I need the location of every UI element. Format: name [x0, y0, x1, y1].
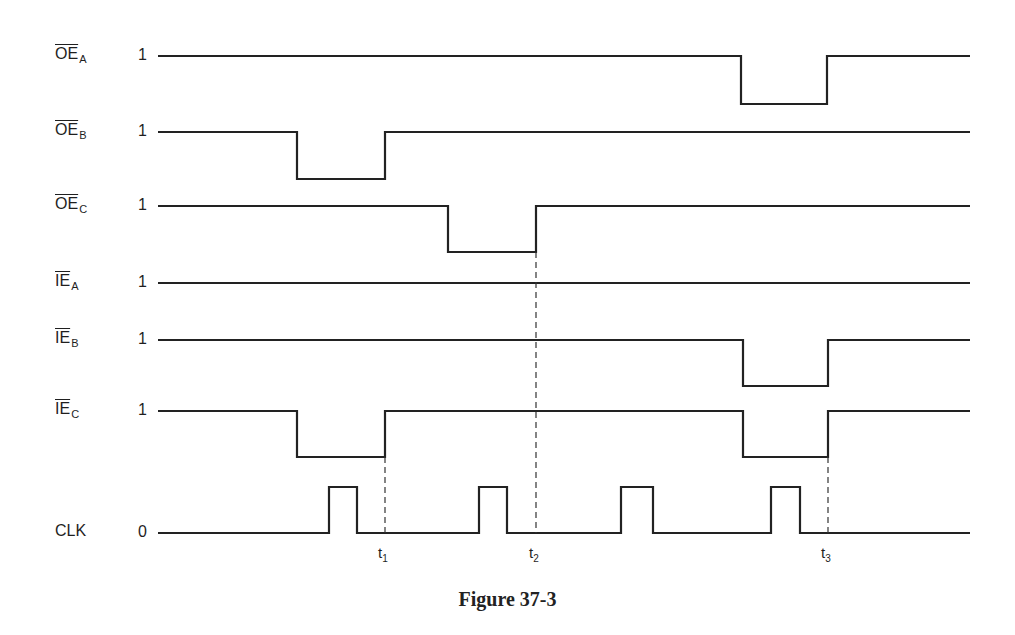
timing-diagram: OEA1OEB1OEC1IEA1IEB1IEC1CLK0t1t2t3 Figur…	[0, 0, 1015, 635]
signal-name-ie_c: IEC	[55, 401, 79, 420]
signal-name-oe_c: OEC	[55, 196, 87, 215]
signal-name-ie_a: IEA	[55, 273, 78, 292]
time-marker-label-3: t3	[821, 545, 831, 564]
signal-name-oe_a: OEA	[55, 46, 86, 65]
waveform-oe_b	[158, 132, 970, 179]
time-marker-label-1: t1	[378, 545, 388, 564]
waveform-ie_b	[158, 340, 970, 386]
level-label-oe_b: 1	[138, 123, 147, 139]
signal-name-clk: CLK	[55, 523, 86, 539]
level-label-ie_a: 1	[138, 274, 147, 290]
level-label-clk: 0	[138, 524, 147, 540]
level-label-ie_c: 1	[138, 402, 147, 418]
waveform-oe_c	[158, 206, 970, 252]
signal-name-oe_b: OEB	[55, 122, 86, 141]
level-label-oe_a: 1	[138, 47, 147, 63]
waveform-canvas	[0, 0, 1015, 635]
level-label-oe_c: 1	[138, 197, 147, 213]
level-label-ie_b: 1	[138, 331, 147, 347]
waveform-clk	[158, 487, 970, 533]
figure-caption: Figure 37-3	[0, 588, 1015, 611]
waveform-oe_a	[158, 56, 970, 104]
time-marker-label-2: t2	[529, 545, 539, 564]
waveform-ie_c	[158, 411, 970, 457]
signal-name-ie_b: IEB	[55, 330, 78, 349]
